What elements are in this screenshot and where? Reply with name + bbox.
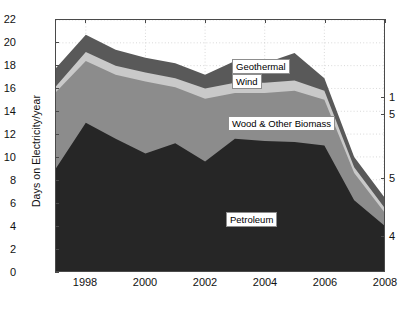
right-annotation: 5	[389, 108, 395, 120]
stacked-area-svg	[56, 20, 384, 271]
y-tick-mark	[55, 111, 59, 112]
right-annotation: 1	[389, 91, 395, 103]
plot-area: GeothermalWindWood & Other BiomassPetrol…	[55, 19, 385, 272]
series-label-wood-other-biomass: Wood & Other Biomass	[228, 116, 335, 131]
y-tick-mark	[55, 249, 59, 250]
x-tick-mark	[265, 19, 266, 23]
x-tick-2000: 2000	[133, 276, 157, 288]
right-tick-mark	[381, 236, 385, 237]
right-tick-mark	[381, 97, 385, 98]
x-tick-mark	[145, 19, 146, 23]
x-tick-2004: 2004	[253, 276, 277, 288]
right-tick-mark	[381, 178, 385, 179]
series-label-geothermal: Geothermal	[232, 59, 290, 74]
right-annotation: 4	[389, 230, 395, 242]
y-tick-mark	[55, 42, 59, 43]
y-tick-mark	[55, 88, 59, 89]
x-tick-mark	[205, 19, 206, 23]
y-tick-mark	[55, 19, 59, 20]
y-tick-mark	[55, 226, 59, 227]
x-tick-mark	[385, 19, 386, 23]
y-tick-mark	[55, 272, 59, 273]
x-tick-1998: 1998	[73, 276, 97, 288]
x-tick-2008: 2008	[373, 276, 397, 288]
y-tick-mark	[55, 203, 59, 204]
x-tick-2002: 2002	[193, 276, 217, 288]
series-label-petroleum: Petroleum	[226, 212, 277, 227]
x-tick-mark	[325, 19, 326, 23]
x-tick-mark	[85, 19, 86, 23]
right-tick-mark	[381, 114, 385, 115]
chart-canvas	[56, 20, 384, 271]
right-annotation: 5	[389, 172, 395, 184]
y-tick-mark	[55, 180, 59, 181]
y-tick-mark	[55, 157, 59, 158]
y-axis-title: Days on Electricity/year	[30, 31, 42, 271]
y-tick-mark	[55, 65, 59, 66]
y-tick-mark	[55, 134, 59, 135]
x-tick-2006: 2006	[313, 276, 337, 288]
chart-figure: Days on Electricity/year 024681012141618…	[0, 0, 405, 313]
series-label-wind: Wind	[232, 74, 262, 89]
